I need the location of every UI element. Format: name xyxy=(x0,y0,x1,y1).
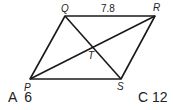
segment-label-qr: 7.8 xyxy=(101,3,115,14)
answer-choice-c: C 12 xyxy=(138,89,168,105)
vertex-label-t: T xyxy=(88,50,95,61)
diagonal-qs xyxy=(65,16,121,79)
vertex-label-s: S xyxy=(117,81,124,92)
vertex-label-r: R xyxy=(153,2,160,13)
answer-choice-a: A 6 xyxy=(8,89,32,105)
vertex-label-q: Q xyxy=(61,3,69,14)
